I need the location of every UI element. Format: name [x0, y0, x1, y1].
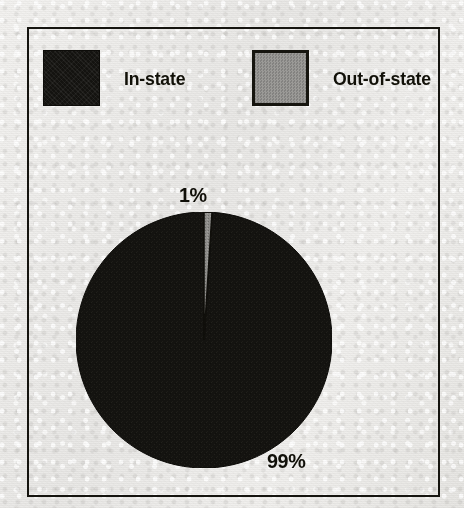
legend-label-out-of-state: Out-of-state	[333, 68, 431, 90]
legend-swatch-out-of-state	[252, 50, 309, 106]
figure-container: In-state Out-of-state	[0, 0, 464, 508]
legend-label-in-state: In-state	[124, 68, 185, 90]
pie-value-label-small: 1%	[179, 183, 207, 207]
legend-swatch-in-state	[43, 50, 100, 106]
pie-chart-svg	[76, 212, 332, 468]
pie-chart	[76, 212, 332, 468]
pie-value-label-large: 99%	[267, 449, 305, 473]
